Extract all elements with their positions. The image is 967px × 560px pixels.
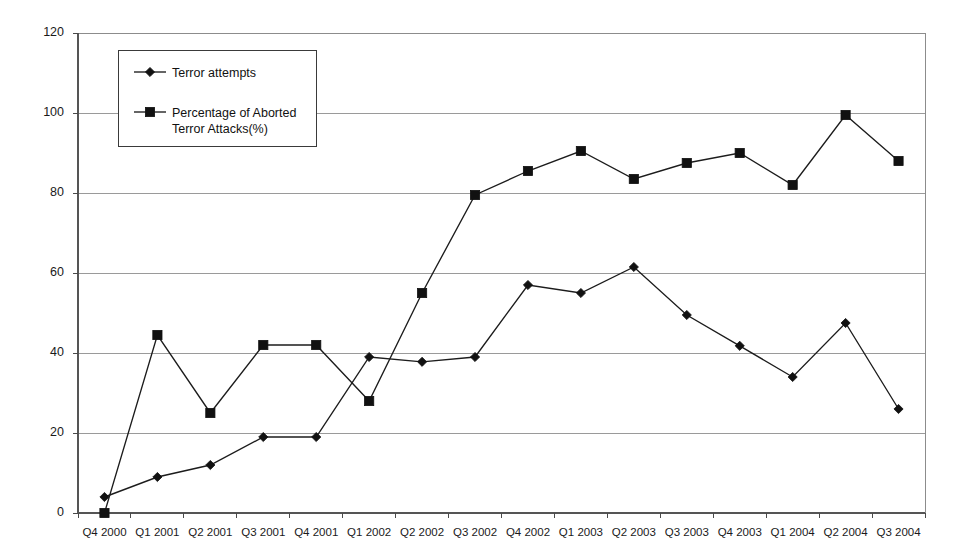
data-point-marker (576, 146, 585, 155)
x-axis-tick-label: Q3 2002 (453, 526, 497, 538)
data-point-marker (206, 460, 215, 469)
y-axis-tick-label: 0 (57, 505, 64, 519)
data-point-marker (735, 341, 744, 350)
series-line (104, 267, 898, 497)
x-axis-tick-label: Q1 2003 (559, 526, 603, 538)
data-point-marker (312, 432, 321, 441)
data-series (100, 262, 903, 501)
x-axis-tick-label: Q1 2001 (135, 526, 179, 538)
data-point-marker (682, 158, 691, 167)
x-axis-tick-label: Q3 2003 (665, 526, 709, 538)
legend-square-marker-icon (145, 107, 154, 116)
x-axis-tick-label: Q1 2004 (771, 526, 816, 538)
data-point-marker (470, 352, 479, 361)
y-axis-tick-label: 100 (43, 105, 64, 119)
data-point-marker (100, 508, 109, 517)
data-point-marker (153, 330, 162, 339)
data-point-marker (523, 280, 532, 289)
x-axis-tick-label: Q2 2003 (612, 526, 656, 538)
data-point-marker (417, 357, 426, 366)
x-axis-tick-label: Q4 2000 (82, 526, 126, 538)
data-point-marker (312, 340, 321, 349)
data-point-marker (153, 472, 162, 481)
x-axis-tick-label: Q1 2002 (347, 526, 391, 538)
legend-label-aborted-line2: Terror Attacks(%) (172, 122, 268, 136)
y-axis: 020406080100120 (43, 25, 78, 519)
line-chart: 020406080100120 Q4 2000Q1 2001Q2 2001Q3 … (0, 0, 967, 560)
x-axis-tick-label: Q2 2002 (400, 526, 444, 538)
legend-label-terror-attempts: Terror attempts (172, 66, 256, 80)
data-series (100, 110, 903, 517)
data-point-marker (841, 110, 850, 119)
data-point-marker (259, 432, 268, 441)
x-axis-tick-label: Q4 2002 (506, 526, 550, 538)
data-point-marker (259, 340, 268, 349)
data-point-marker (894, 156, 903, 165)
legend-label-aborted-line1: Percentage of Aborted (172, 106, 296, 120)
data-point-marker (894, 404, 903, 413)
data-point-marker (523, 166, 532, 175)
data-point-marker (206, 408, 215, 417)
x-axis-tick-label: Q4 2001 (294, 526, 338, 538)
series-line (104, 115, 898, 513)
y-axis-tick-label: 40 (50, 345, 64, 359)
data-point-marker (629, 174, 638, 183)
x-axis-tick-label: Q3 2004 (876, 526, 921, 538)
y-axis-tick-label: 120 (43, 25, 64, 39)
data-point-marker (365, 352, 374, 361)
chart-container: 020406080100120 Q4 2000Q1 2001Q2 2001Q3 … (0, 0, 967, 560)
data-point-marker (470, 190, 479, 199)
data-point-marker (365, 396, 374, 405)
data-point-marker (417, 288, 426, 297)
y-axis-tick-label: 20 (50, 425, 64, 439)
x-axis-tick-label: Q2 2004 (824, 526, 869, 538)
data-point-marker (735, 148, 744, 157)
data-point-marker (576, 288, 585, 297)
x-axis-tick-label: Q4 2003 (718, 526, 762, 538)
data-point-marker (788, 180, 797, 189)
y-axis-tick-label: 80 (50, 185, 64, 199)
chart-legend: Terror attemptsPercentage of AbortedTerr… (118, 50, 316, 146)
series-group (100, 110, 903, 517)
x-axis-tick-label: Q3 2001 (241, 526, 285, 538)
x-axis-tick-label: Q2 2001 (188, 526, 232, 538)
x-axis: Q4 2000Q1 2001Q2 2001Q3 2001Q4 2001Q1 20… (78, 513, 925, 538)
y-axis-tick-label: 60 (50, 265, 64, 279)
